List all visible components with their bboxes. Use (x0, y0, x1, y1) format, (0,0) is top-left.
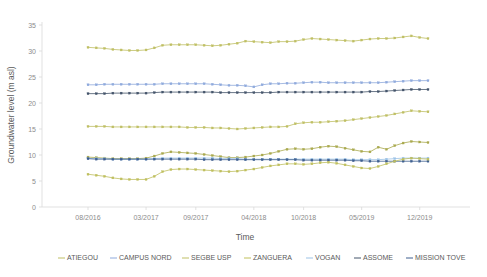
y-axis-tick-label: 5 (32, 178, 36, 185)
y-axis-tick-label: 30 (28, 48, 36, 55)
y-axis-tick-label: 35 (28, 22, 36, 29)
y-axis-tick-label: 15 (28, 126, 36, 133)
y-axis-tick-label: 10 (28, 152, 36, 159)
x-axis-tick-label: 03/2017 (133, 214, 158, 221)
x-axis-tick-label: 12/2019 (407, 214, 432, 221)
legend-item-label: CAMPUS NORD (119, 254, 172, 261)
y-axis-title: Groundwater level (m asl) (6, 66, 16, 163)
x-axis-tick-label: 09/2017 (183, 214, 208, 221)
legend-item-label: ZANGUERA (253, 254, 292, 261)
legend-item-campus-nord[interactable]: CAMPUS NORD (110, 254, 172, 261)
legend-item-label: ASSOME (363, 254, 393, 261)
legend-item-label: MISSION TOVE (415, 254, 466, 261)
legend-item-label: VOGAN (315, 254, 340, 261)
legend-item-label: ATIEGOU (67, 254, 98, 261)
x-axis-title: Time (236, 232, 255, 242)
y-axis-tick-label: 20 (28, 100, 36, 107)
legend-item-mission-tove[interactable]: MISSION TOVE (406, 254, 466, 261)
x-axis-tick-label: 04/2018 (241, 214, 266, 221)
groundwater-level-line-chart: 05101520253035 08/201603/201709/201704/2… (0, 0, 487, 277)
x-axis-tick-label: 08/2016 (75, 214, 100, 221)
legend-item-label: SEGBE USP (191, 254, 232, 261)
x-axis-tick-label: 10/2018 (291, 214, 316, 221)
y-axis-tick-label: 25 (28, 74, 36, 81)
y-axis-tick-label: 0 (32, 204, 36, 211)
x-axis-tick-label: 05/2019 (349, 214, 374, 221)
